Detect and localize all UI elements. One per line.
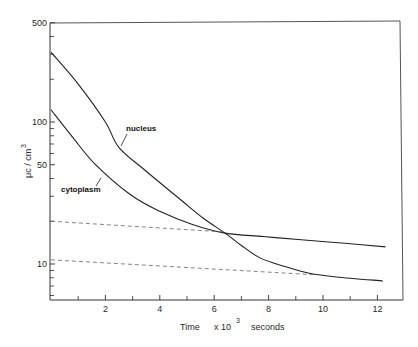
series-layer xyxy=(51,52,386,281)
x-axis-title-word: Time xyxy=(180,322,200,332)
y-tick-label: 100 xyxy=(32,117,47,127)
y-axis-title-exponent: 3 xyxy=(20,144,27,148)
x-tick-label: 10 xyxy=(318,304,328,314)
cytoplasm-label-group: cytoplasm xyxy=(61,178,101,194)
x-axis-title-multiplier: x 10 xyxy=(214,322,231,332)
x-tick-label: 12 xyxy=(372,304,382,314)
nucleus-label-group: nucleus xyxy=(121,124,157,146)
y-axis-title-base: μc / cm xyxy=(23,149,33,178)
y-tick-label: 50 xyxy=(37,160,47,170)
series-nucleus-slow-component-extrapolation xyxy=(51,260,315,275)
cytoplasm-label: cytoplasm xyxy=(61,185,101,194)
x-axis-title-unit: seconds xyxy=(251,322,285,332)
x-tick-label: 2 xyxy=(103,304,108,314)
y-axis-title: μc / cm 3 xyxy=(20,144,33,178)
y-axis-ticks: 1050100500 xyxy=(32,18,55,296)
x-tick-label: 4 xyxy=(157,304,162,314)
series-nucleus xyxy=(51,52,383,281)
y-tick-label: 500 xyxy=(32,18,47,28)
decay-chart: 1050100500 24681012 nucleus cytoplasm Ti… xyxy=(0,0,418,347)
x-axis-title-exponent: 3 xyxy=(236,317,240,324)
x-axis-title: Time x 10 3 seconds xyxy=(180,317,285,332)
plot-frame xyxy=(50,21,403,300)
y-tick-label: 10 xyxy=(37,259,47,269)
x-tick-label: 6 xyxy=(212,304,217,314)
x-axis-ticks: 24681012 xyxy=(78,295,382,314)
x-tick-label: 8 xyxy=(266,304,271,314)
nucleus-label: nucleus xyxy=(126,124,157,133)
